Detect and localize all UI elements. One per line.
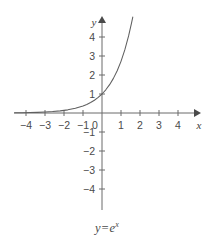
x-tick-label-2: 2 xyxy=(137,119,143,131)
y-axis-label: y xyxy=(91,16,97,28)
x-tick-label--2: −2 xyxy=(58,119,70,131)
function-graph-figure: −4 −3 −2 −1 0 1 2 3 4 4 3 2 1 −1 −2 −3 −… xyxy=(0,0,214,247)
caption-exponent: x xyxy=(115,220,119,229)
y-tick-label-1: 1 xyxy=(89,88,95,100)
plot-canvas: −4 −3 −2 −1 0 1 2 3 4 4 3 2 1 −1 −2 −3 −… xyxy=(0,0,214,247)
y-tick-label--4: −4 xyxy=(83,183,95,195)
y-axis-arrow-icon xyxy=(98,16,106,23)
x-axis-arrow-icon xyxy=(194,109,201,117)
y-tick-label-4: 4 xyxy=(89,31,95,43)
x-tick-label-1: 1 xyxy=(118,119,124,131)
y-tick-label-3: 3 xyxy=(89,50,95,62)
y-tick-label--3: −3 xyxy=(83,164,95,176)
y-tick-label-2: 2 xyxy=(89,69,95,81)
x-tick-label-4: 4 xyxy=(175,119,181,131)
caption-base: y=e xyxy=(95,221,115,235)
x-tick-label--3: −3 xyxy=(39,119,51,131)
exponential-curve xyxy=(15,17,133,113)
x-tick-label--4: −4 xyxy=(20,119,32,131)
figure-caption: y=ex xyxy=(0,221,214,236)
x-axis-label: x xyxy=(196,119,202,131)
x-tick-label-3: 3 xyxy=(156,119,162,131)
y-tick-label--2: −2 xyxy=(83,145,95,157)
y-tick-label--1: −1 xyxy=(83,126,95,138)
